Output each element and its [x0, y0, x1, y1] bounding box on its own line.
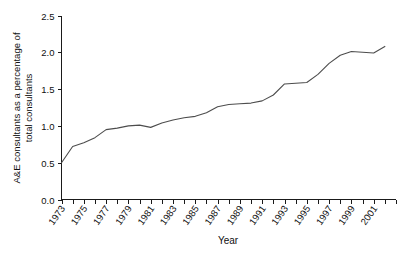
x-tick-label: 1979	[113, 203, 134, 227]
y-tick-label: 2.0	[41, 47, 54, 58]
y-tick-label: 0.5	[41, 158, 54, 169]
y-axis-label-line1: A&E consultants as a percentage of	[11, 32, 22, 183]
x-tick-label: 1991	[247, 203, 268, 227]
x-axis-ticks	[63, 200, 397, 204]
y-tick-label: 1.5	[41, 84, 54, 95]
x-tick-label: 1985	[180, 203, 201, 227]
y-tick-label: 2.5	[41, 11, 54, 22]
x-tick-label: 1983	[158, 203, 179, 227]
y-axis-tick-labels: 0.00.51.01.52.02.5	[41, 11, 54, 206]
x-tick-label: 1993	[269, 203, 290, 227]
x-tick-label: 1973	[46, 203, 67, 227]
x-tick-label: 1975	[68, 203, 89, 227]
x-tick-label: 1977	[91, 203, 112, 227]
x-tick-label: 1981	[135, 203, 156, 227]
x-tick-label: 1997	[314, 203, 335, 227]
x-tick-label: 1995	[291, 203, 312, 227]
line-chart-plot: 0.00.51.01.52.02.5 197319751977197919811…	[0, 0, 405, 258]
x-tick-label: 2001	[358, 203, 379, 227]
chart-figure: 0.00.51.01.52.02.5 197319751977197919811…	[0, 0, 405, 258]
y-axis-label-line2: total consultants	[23, 73, 34, 142]
x-tick-label: 1989	[224, 203, 245, 227]
data-series-line	[62, 46, 385, 162]
y-tick-label: 1.0	[41, 121, 54, 132]
x-tick-label: 1999	[336, 203, 357, 227]
x-axis-label: Year	[218, 235, 239, 246]
x-axis-tick-labels: 1973197519771979198119831985198719891991…	[46, 203, 379, 227]
y-tick-label: 0.0	[41, 195, 54, 206]
x-tick-label: 1987	[202, 203, 223, 227]
